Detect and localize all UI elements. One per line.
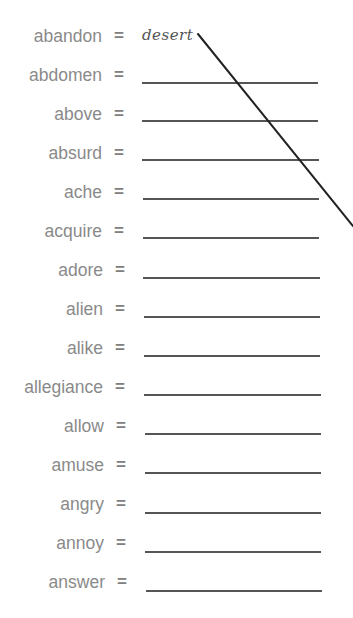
vocab-word: abandon (34, 21, 102, 51)
answer-blank-annoy[interactable] (145, 551, 321, 553)
vocab-row-acquire: acquire = (0, 216, 353, 246)
answer-blank-amuse[interactable] (145, 472, 321, 474)
vocab-word: annoy (56, 528, 104, 558)
equals-sign: = (116, 528, 126, 558)
vocab-row-allow: allow = (0, 411, 353, 441)
answer-blank-allow[interactable] (145, 433, 321, 435)
vocab-row-ache: ache = (0, 177, 353, 207)
answer-blank-allegiance[interactable] (144, 394, 321, 396)
vocab-row-above: above = (0, 99, 353, 129)
vocab-row-angry: angry = (0, 489, 353, 519)
vocab-word: answer (49, 567, 105, 597)
equals-sign: = (114, 60, 124, 90)
equals-sign: = (116, 450, 126, 480)
equals-sign: = (114, 138, 124, 168)
equals-sign: = (114, 99, 124, 129)
vocab-row-allegiance: allegiance = (0, 372, 353, 402)
cut-off-heading (140, 0, 300, 3)
vocab-word: amuse (51, 450, 104, 480)
vocab-row-alike: alike = (0, 333, 353, 363)
answer-blank-absurd[interactable] (142, 159, 319, 161)
answer-blank-angry[interactable] (145, 512, 321, 514)
equals-sign: = (116, 411, 126, 441)
vocab-word: above (54, 99, 102, 129)
equals-sign: = (116, 489, 126, 519)
vocab-word: alike (67, 333, 103, 363)
vocab-word: ache (64, 177, 102, 207)
answer-blank-above[interactable] (142, 120, 318, 122)
equals-sign: = (114, 21, 124, 51)
answer-handwritten[interactable]: desert (142, 21, 193, 51)
equals-sign: = (115, 333, 125, 363)
vocab-word: allow (64, 411, 104, 441)
equals-sign: = (115, 255, 125, 285)
vocab-word: allegiance (24, 372, 103, 402)
vocab-word: adore (58, 255, 103, 285)
answer-blank-alike[interactable] (144, 355, 320, 357)
vocab-word: acquire (45, 216, 102, 246)
vocab-word: abdomen (29, 60, 102, 90)
equals-sign: = (114, 177, 124, 207)
vocabulary-worksheet: abandon = desert abdomen = above = absur… (0, 0, 353, 618)
vocab-row-abandon: abandon = desert (0, 21, 353, 51)
answer-blank-ache[interactable] (143, 198, 319, 200)
equals-sign: = (115, 294, 125, 324)
vocab-row-alien: alien = (0, 294, 353, 324)
answer-blank-abdomen[interactable] (142, 82, 318, 84)
equals-sign: = (117, 567, 127, 597)
answer-blank-adore[interactable] (143, 277, 320, 279)
answer-blank-alien[interactable] (144, 316, 320, 318)
vocab-row-absurd: absurd = (0, 138, 353, 168)
vocab-row-abdomen: abdomen = (0, 60, 353, 90)
vocab-row-answer: answer = (0, 567, 353, 597)
vocab-row-amuse: amuse = (0, 450, 353, 480)
vocab-row-annoy: annoy = (0, 528, 353, 558)
answer-blank-answer[interactable] (146, 590, 322, 592)
vocab-word: alien (66, 294, 103, 324)
answer-blank-acquire[interactable] (143, 237, 319, 239)
vocab-word: angry (60, 489, 104, 519)
equals-sign: = (115, 372, 125, 402)
equals-sign: = (114, 216, 124, 246)
vocab-word: absurd (48, 138, 102, 168)
vocab-row-adore: adore = (0, 255, 353, 285)
